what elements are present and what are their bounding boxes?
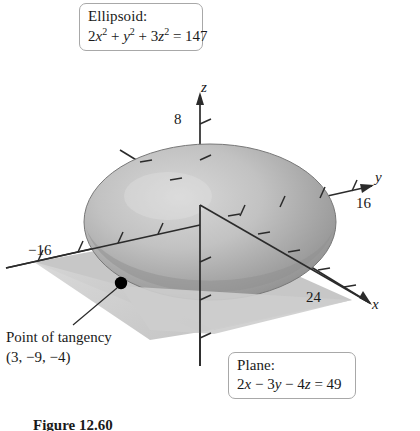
tangency-annotation: Point of tangency (3, −9, −4) xyxy=(6,328,112,367)
plane-equation: 2x − 3y − 4z = 49 xyxy=(237,375,347,394)
plane-coef-z: 4 xyxy=(297,376,305,392)
ellipsoid-exp-y: 2 xyxy=(130,26,135,37)
plane-coef-y: 3 xyxy=(267,376,275,392)
figure-caption: Figure 12.60 xyxy=(33,417,113,431)
ellipsoid-exp-x: 2 xyxy=(102,26,107,37)
y-axis-tick-label-neg16: −16 xyxy=(28,242,51,259)
plane-var-x: x xyxy=(245,376,252,392)
ellipsoid-equals: = xyxy=(173,28,181,44)
tangency-coordinates: (3, −9, −4) xyxy=(6,348,112,368)
ellipsoid-plus-2: + xyxy=(139,28,147,44)
y-axis-arrowhead xyxy=(360,184,374,193)
x-axis-tick-label-24: 24 xyxy=(306,289,321,306)
tangency-point-dot xyxy=(115,277,127,289)
plane-rhs: 49 xyxy=(327,376,342,392)
x-axis-label: x xyxy=(372,296,379,313)
ellipsoid-plus-1: + xyxy=(111,28,119,44)
z-axis-label: z xyxy=(201,79,207,96)
ellipsoid-coef-x: 2 xyxy=(88,28,96,44)
plane-var-z: z xyxy=(305,376,311,392)
y-axis-label: y xyxy=(375,169,382,186)
y-axis-tick-label-16: 16 xyxy=(356,195,371,212)
plane-callout-title: Plane: xyxy=(237,356,347,375)
x-axis-arrowhead xyxy=(359,291,372,305)
ellipsoid-surface xyxy=(84,144,336,300)
ellipsoid-var-y: y xyxy=(123,28,130,44)
ellipsoid-callout-title: Ellipsoid: xyxy=(88,7,194,26)
ellipsoid-callout-box: Ellipsoid: 2x2 + y2 + 3z2 = 147 xyxy=(79,3,203,51)
plane-var-y: y xyxy=(275,376,282,392)
plane-equals: = xyxy=(314,376,322,392)
ellipsoid-equation: 2x2 + y2 + 3z2 = 147 xyxy=(88,26,194,46)
plane-callout-box: Plane: 2x − 3y − 4z = 49 xyxy=(228,352,356,399)
plane-minus-1: − xyxy=(255,376,263,392)
z-axis-tick-label-8: 8 xyxy=(174,111,182,128)
figure-ellipsoid-tangent-plane: Ellipsoid: 2x2 + y2 + 3z2 = 147 Plane: 2… xyxy=(0,0,420,431)
ellipsoid-rhs: 147 xyxy=(185,28,208,44)
plane-coef-x: 2 xyxy=(237,376,245,392)
tangency-label: Point of tangency xyxy=(6,328,112,348)
plane-minus-2: − xyxy=(285,376,293,392)
ellipsoid-exp-z: 2 xyxy=(164,26,169,37)
